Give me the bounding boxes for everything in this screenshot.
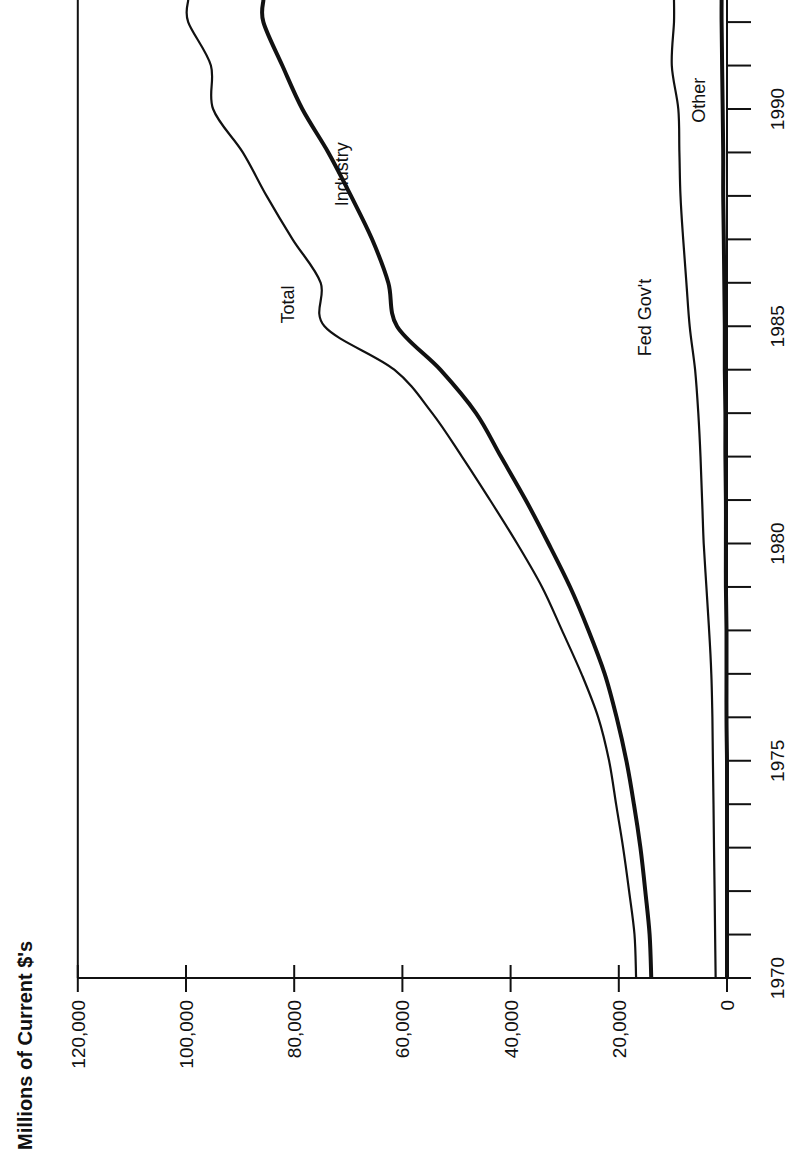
value-axis-title: Millions of Current $'s (14, 941, 36, 1150)
series-label-industry: Industry (332, 142, 352, 206)
series-label-other: Other (689, 78, 709, 123)
series-label-fed-gov-t: Fed Gov't (635, 279, 655, 356)
rd-funding-line-chart: 020,00040,00060,00080,000100,000120,0001… (0, 0, 798, 1159)
series-line-fed-gov-t (672, 0, 716, 978)
year-tick-label: 1990 (767, 88, 788, 130)
value-tick-label: 120,000 (68, 1000, 89, 1069)
year-tick-label: 1980 (767, 522, 788, 564)
chart-series (187, 0, 728, 978)
value-tick-label: 80,000 (284, 1000, 305, 1058)
value-tick-label: 0 (717, 1000, 738, 1011)
year-tick-label: 1975 (767, 740, 788, 782)
series-label-total: Total (278, 286, 298, 324)
series-line-industry (262, 0, 651, 978)
value-tick-label: 40,000 (501, 1000, 522, 1058)
year-tick-label: 1970 (767, 957, 788, 999)
chart-labels: TotalIndustryFed Gov'tOther (278, 78, 709, 357)
value-tick-label: 20,000 (609, 1000, 630, 1058)
series-line-total (187, 0, 637, 978)
year-tick-label: 1985 (767, 305, 788, 347)
value-tick-label: 60,000 (392, 1000, 413, 1058)
value-tick-label: 100,000 (176, 1000, 197, 1069)
chart-axes: 020,00040,00060,00080,000100,000120,0001… (14, 0, 788, 1150)
